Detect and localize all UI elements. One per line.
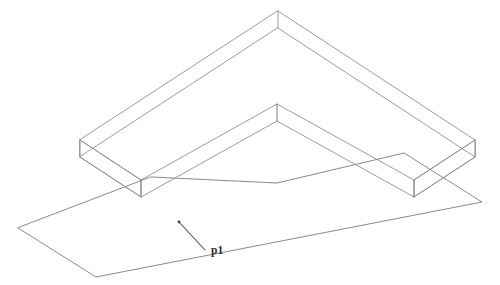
drawing-canvas: p1 xyxy=(0,0,500,285)
plane-outline xyxy=(18,153,482,277)
plane-label-p1: p1 xyxy=(211,244,224,257)
reference-plane-p1 xyxy=(18,153,482,277)
leader-line xyxy=(179,222,205,250)
plate-right-end-face xyxy=(414,140,475,197)
plane-label-annotation: p1 xyxy=(178,221,224,257)
plate-left-end-face xyxy=(80,140,141,197)
plate-top-face xyxy=(80,11,475,180)
isometric-cad-drawing: p1 xyxy=(0,0,500,285)
plate-bottom-face xyxy=(80,28,475,197)
l-shaped-plate xyxy=(80,11,475,197)
